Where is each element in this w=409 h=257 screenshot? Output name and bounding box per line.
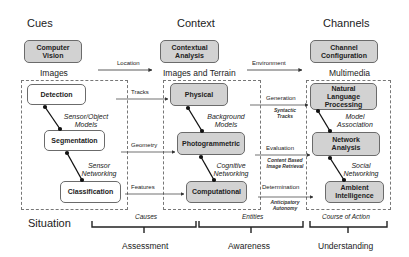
brace-causes bbox=[92, 221, 196, 233]
link-network-ambient bbox=[330, 158, 344, 180]
brace-entities bbox=[199, 221, 303, 233]
link-detection-segmentation bbox=[45, 107, 60, 129]
link-nlp-network-analysis bbox=[318, 111, 330, 131]
connector-lines bbox=[0, 0, 409, 257]
link-segmentation-classification bbox=[67, 153, 82, 180]
link-physical-photogrammetric bbox=[188, 108, 202, 131]
link-photogrammetric-computational bbox=[201, 157, 214, 180]
brace-course-of-action bbox=[310, 221, 387, 233]
